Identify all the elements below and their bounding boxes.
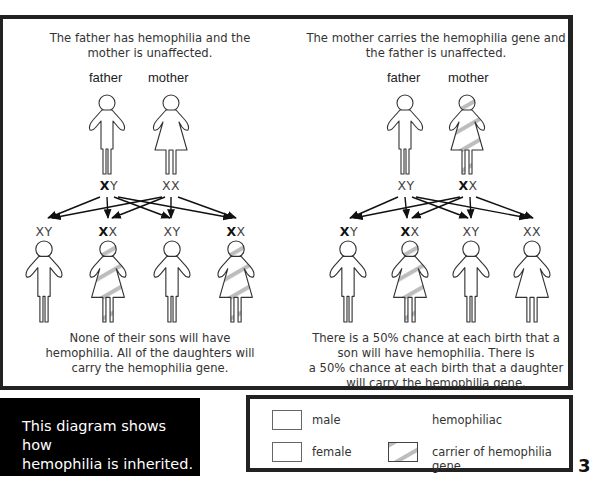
page-number-fragment: 3 [578, 455, 591, 476]
legend-carrier-swatch [388, 442, 418, 462]
caption-line-2: hemophilia is inherited. [22, 455, 200, 474]
left-summary-line-1: None of their sons will have [20, 331, 280, 346]
left-child-4-carrier-female-figure [215, 240, 257, 324]
right-inheritance-arrows [0, 0, 586, 240]
left-child-2-carrier-female-figure [87, 240, 129, 324]
legend-hemophiliac-label: hemophiliac [432, 413, 502, 427]
right-child-1-genotype: XY [340, 224, 358, 239]
right-child-4-genotype: XX [523, 224, 541, 239]
left-summary-line-2: hemophilia. All of the daughters will [20, 346, 280, 361]
legend-female-label: female [312, 445, 352, 459]
left-child-1-male-figure [23, 240, 65, 324]
right-child-3-genotype: XY [462, 224, 479, 239]
right-child-4-female-figure [511, 240, 553, 324]
legend-carrier-label: carrier of hemophilia gene [432, 445, 569, 473]
caption-line-1: This diagram shows how [22, 417, 200, 455]
right-summary-line-4: will carry the hemophilia gene. [300, 376, 572, 391]
right-summary: There is a 50% chance at each birth that… [300, 331, 572, 391]
legend-male-swatch [272, 410, 302, 430]
right-summary-line-2: son will have hemophilia. There is [300, 346, 572, 361]
left-child-3-male-figure [151, 240, 193, 324]
right-child-2-carrier-female-figure [389, 240, 431, 324]
legend-male-label: male [312, 413, 341, 427]
legend: male hemophiliac female carrier of hemop… [246, 395, 573, 472]
legend-female-swatch [272, 442, 302, 462]
left-summary: None of their sons will have hemophilia.… [20, 331, 280, 376]
left-summary-line-3: carry the hemophilia gene. [20, 361, 280, 376]
right-child-1-hemophiliac-male-figure [327, 240, 369, 324]
caption-box: This diagram shows how hemophilia is inh… [0, 398, 200, 476]
right-summary-line-1: There is a 50% chance at each birth that… [300, 331, 572, 346]
right-summary-line-3: a 50% chance at each birth that a daught… [300, 361, 572, 376]
right-child-3-male-figure [450, 240, 492, 324]
right-child-2-genotype: XX [400, 224, 419, 239]
